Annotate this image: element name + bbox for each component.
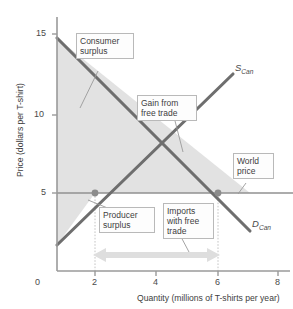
x-tick-label-6: 6 [215, 277, 220, 287]
y-axis-title: Price (dollars per T-shirt) [15, 70, 25, 190]
annotation-world-price: World price [233, 153, 274, 179]
domestic-supply-point [92, 190, 99, 197]
x-tick-label-4: 4 [153, 277, 158, 287]
y-tick-label-5: 5 [41, 187, 46, 197]
x-tick-label-0: 0 [35, 277, 40, 287]
supply-curve-label-sub: Can [241, 68, 253, 75]
x-tick-label-2: 2 [92, 277, 97, 287]
y-tick-label-10: 10 [34, 109, 44, 119]
annotation-imports-with-free-trade: Imports with free trade [163, 203, 214, 239]
supply-curve-label: SCan [235, 62, 253, 75]
domestic-demand-point [215, 190, 222, 197]
annotation-producer-surplus: Producer surplus [99, 207, 155, 233]
imports-span-arrow [93, 248, 220, 262]
free-trade-surplus-chart: 15 10 5 0 2 4 6 8 Quantity (millions of … [0, 0, 293, 309]
demand-curve-label: DCan [252, 218, 271, 231]
demand-curve-label-sub: Can [259, 224, 271, 231]
demand-curve-label-text: D [252, 218, 259, 229]
x-tick-label-8: 8 [275, 277, 280, 287]
annotation-gain-from-free-trade: Gain from free trade [137, 95, 197, 121]
y-tick-label-15: 15 [36, 28, 46, 38]
x-axis-title: Quantity (millions of T-shirts per year) [137, 293, 280, 303]
annotation-consumer-surplus: Consumer surplus [76, 33, 134, 59]
